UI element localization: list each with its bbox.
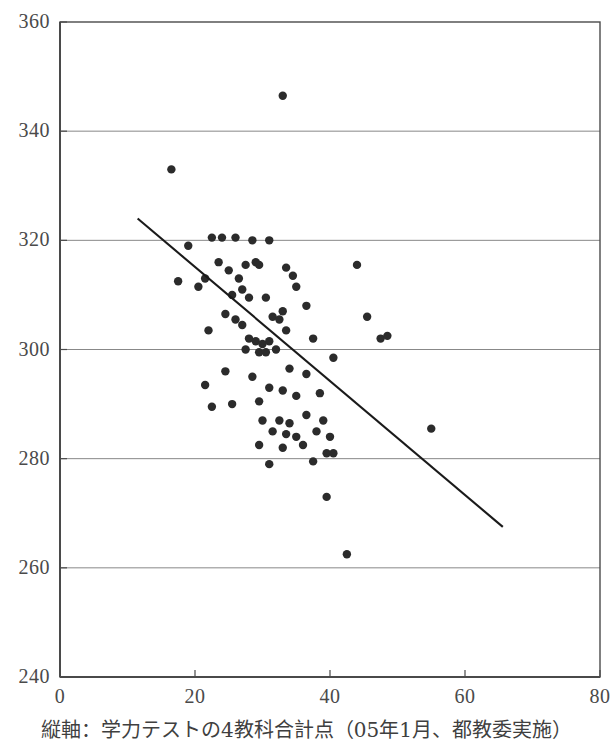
data-point [282,263,290,271]
data-point [302,302,310,310]
data-point [231,315,239,323]
data-point [279,91,287,99]
data-point [427,424,435,432]
data-point [302,411,310,419]
data-point [221,310,229,318]
data-point [275,315,283,323]
data-point [225,266,233,274]
data-point [282,326,290,334]
data-point [238,321,246,329]
data-point [201,381,209,389]
data-point [383,332,391,340]
data-point [231,233,239,241]
data-point [208,233,216,241]
data-point [326,433,334,441]
data-point [302,370,310,378]
data-point [265,236,273,244]
data-point [255,441,263,449]
y-tick-label: 360 [2,10,50,33]
data-point [204,326,212,334]
data-point [248,373,256,381]
data-point [255,397,263,405]
data-point [218,233,226,241]
data-point [235,274,243,282]
data-point [167,165,175,173]
x-tick-label: 80 [576,685,613,708]
plot-canvas [0,0,613,748]
data-point [208,403,216,411]
data-point [248,236,256,244]
data-point [292,392,300,400]
data-point [292,433,300,441]
data-point [319,416,327,424]
data-point [272,345,280,353]
data-point [245,293,253,301]
data-point [279,386,287,394]
data-point [312,427,320,435]
data-point [343,550,351,558]
data-point [309,457,317,465]
data-point [228,400,236,408]
data-point [275,416,283,424]
data-point [309,334,317,342]
y-tick-label: 320 [2,228,50,251]
data-point [194,283,202,291]
data-point [241,261,249,269]
data-point [285,419,293,427]
y-tick-label: 340 [2,119,50,142]
scatter-plot-figure: 240260280300320340360 020406080 縦軸：学力テスト… [0,0,613,748]
data-point [279,307,287,315]
regression-line [138,219,503,527]
x-tick-label: 0 [36,685,84,708]
data-point [363,313,371,321]
y-tick-label: 300 [2,338,50,361]
data-point [174,277,182,285]
data-point [214,258,222,266]
trend-line [138,219,503,527]
data-point [238,285,246,293]
x-tick-label: 40 [306,685,354,708]
x-tick-label: 20 [171,685,219,708]
data-point [322,493,330,501]
data-point [329,449,337,457]
y-tick-label: 260 [2,556,50,579]
y-tick-label: 280 [2,447,50,470]
x-axis-ticks [195,670,600,677]
data-point [241,345,249,353]
data-point [262,293,270,301]
data-point [268,427,276,435]
data-point [184,242,192,250]
data-point [292,283,300,291]
data-point [265,460,273,468]
gridlines [60,131,600,568]
data-point [265,384,273,392]
data-point [255,261,263,269]
x-tick-label: 60 [441,685,489,708]
data-point [221,367,229,375]
figure-caption: 縦軸：学力テストの4教科合計点（05年1月、都教委実施） [0,714,613,743]
data-point [316,389,324,397]
data-point [279,444,287,452]
data-point [265,337,273,345]
data-point [353,261,361,269]
data-point [299,441,307,449]
data-point [262,348,270,356]
data-point [289,272,297,280]
data-point [285,364,293,372]
data-point [282,430,290,438]
data-points [167,91,435,558]
data-point [329,353,337,361]
data-point [258,416,266,424]
